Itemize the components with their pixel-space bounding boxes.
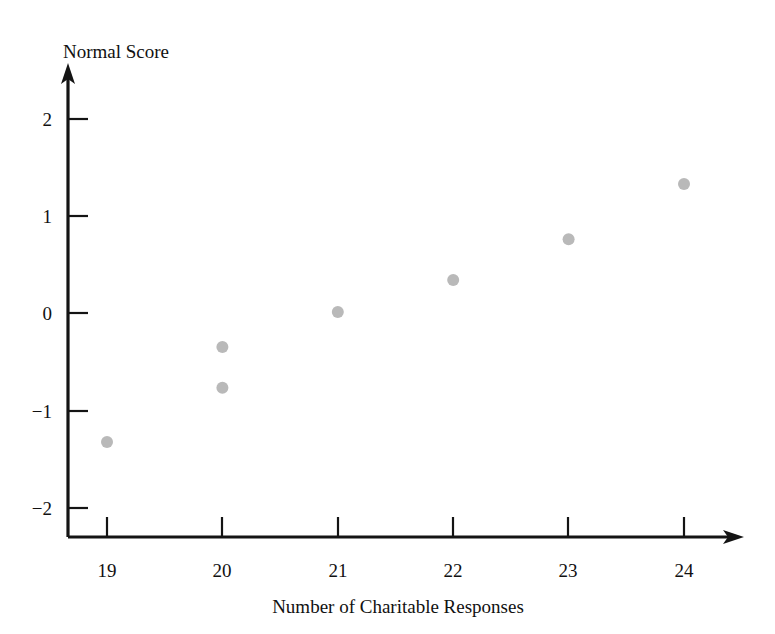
x-tick-label-22: 22 bbox=[444, 560, 463, 581]
data-points-layer bbox=[101, 178, 690, 448]
x-axis-ticks bbox=[107, 517, 684, 537]
y-tick-label-2: 2 bbox=[43, 109, 53, 130]
y-tick-label-neg2: −2 bbox=[32, 498, 52, 519]
y-tick-label-1: 1 bbox=[43, 206, 53, 227]
x-tick-label-24: 24 bbox=[675, 560, 695, 581]
x-tick-label-19: 19 bbox=[98, 560, 117, 581]
data-point bbox=[216, 382, 228, 394]
data-point bbox=[678, 178, 690, 190]
y-axis-title: Normal Score bbox=[63, 41, 169, 62]
data-point bbox=[447, 274, 459, 286]
y-tick-label-neg1: −1 bbox=[32, 401, 52, 422]
data-point bbox=[101, 436, 113, 448]
x-tick-label-23: 23 bbox=[559, 560, 578, 581]
x-tick-label-20: 20 bbox=[213, 560, 232, 581]
data-point bbox=[563, 233, 575, 245]
y-axis-ticks bbox=[68, 119, 88, 508]
data-point bbox=[216, 341, 228, 353]
normal-probability-plot-figure: 2 1 0 −1 −2 19 20 21 22 23 24 Normal Sco… bbox=[0, 0, 775, 634]
x-axis-title: Number of Charitable Responses bbox=[272, 596, 524, 617]
x-tick-label-21: 21 bbox=[329, 560, 348, 581]
data-point bbox=[332, 306, 344, 318]
scatter-chart: 2 1 0 −1 −2 19 20 21 22 23 24 Normal Sco… bbox=[0, 0, 775, 634]
y-tick-label-0: 0 bbox=[43, 303, 53, 324]
